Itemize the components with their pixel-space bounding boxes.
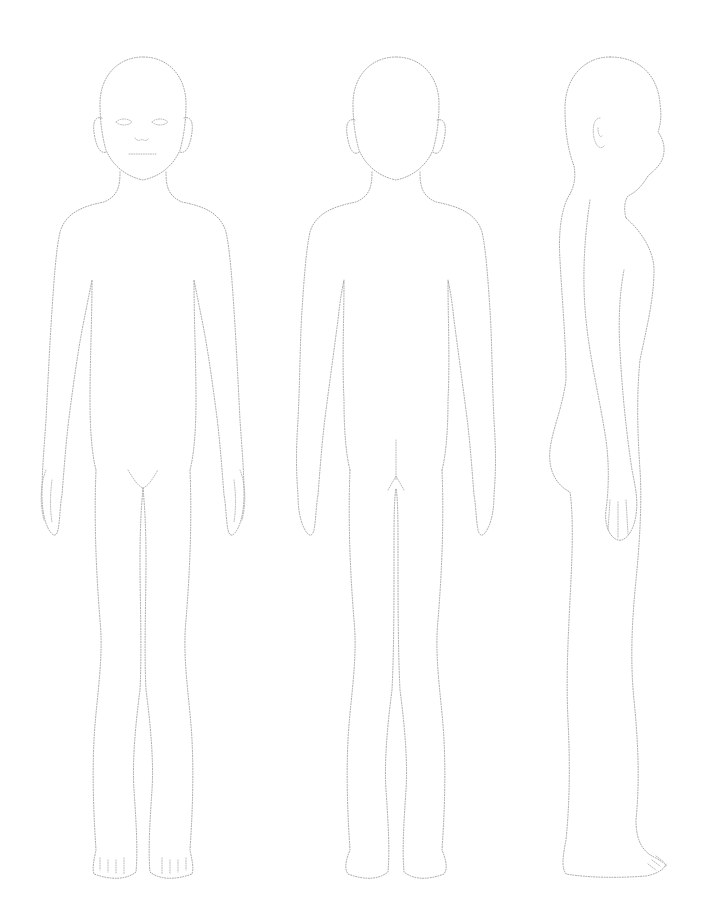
back-body-right (420, 172, 496, 535)
side-hand (608, 500, 628, 538)
front-nose (135, 138, 149, 140)
front-body-right (166, 172, 244, 535)
back-leg-left (346, 470, 396, 878)
back-head-outline (353, 57, 439, 180)
back-ear-left (347, 120, 359, 154)
side-body-back (550, 194, 666, 877)
front-leg-right (143, 470, 193, 878)
front-groin (128, 470, 158, 488)
side-body-front (626, 218, 666, 866)
front-toes-right (162, 858, 186, 874)
side-arm (584, 200, 637, 540)
back-ear-right (433, 120, 445, 154)
back-spine-cleft (388, 440, 404, 490)
side-ear (593, 118, 604, 148)
side-head-outline (565, 57, 664, 218)
front-body-left (42, 172, 120, 535)
front-hand-right (234, 470, 245, 522)
front-head-outline (100, 57, 186, 180)
back-leg-right (396, 470, 446, 878)
croquis-sheet (0, 0, 713, 919)
front-leg-left (93, 470, 143, 878)
front-toes-left (100, 858, 124, 874)
front-eye-left (116, 119, 132, 125)
front-ear-right (180, 118, 192, 153)
figure-outlines (0, 0, 713, 919)
back-body-left (297, 172, 373, 535)
figure-side-view (550, 57, 666, 877)
figure-back-view (297, 57, 496, 878)
figure-front-view (41, 57, 245, 878)
front-hand-left (41, 470, 52, 522)
front-eye-right (152, 119, 168, 125)
front-ear-left (94, 118, 106, 153)
